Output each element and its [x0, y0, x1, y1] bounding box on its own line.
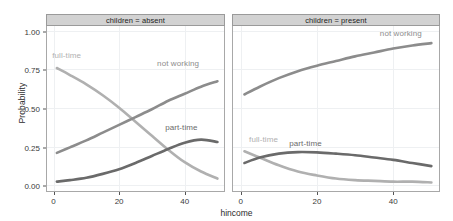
x-tick-mark — [119, 192, 120, 195]
x-tick-mark — [317, 192, 318, 195]
facet-panel: children = presentnot workingfull-timepa… — [232, 14, 440, 192]
x-tick-label: 40 — [389, 197, 398, 206]
series-label-not-working: not working — [380, 28, 422, 37]
x-tick-label: 0 — [238, 197, 242, 206]
series-label-part-time: part-time — [165, 123, 197, 132]
x-tick-mark — [185, 192, 186, 195]
series-label-part-time: part-time — [289, 138, 321, 147]
panel-strip-label: children = present — [232, 14, 440, 26]
y-tick-label: 0.75 — [14, 66, 40, 75]
facet-panel: children = absentfull-timenot workingpar… — [46, 14, 225, 192]
x-tick-mark — [241, 192, 242, 195]
x-tick-mark — [393, 192, 394, 195]
series-label-not-working: not working — [157, 59, 199, 68]
series-line-not-working — [244, 43, 431, 94]
chart-figure: Probability 0.000.250.500.751.00 0204002… — [0, 0, 453, 221]
panel-strip-label: children = absent — [46, 14, 225, 26]
series-line-not-working — [57, 81, 218, 153]
series-line-part-time — [57, 140, 218, 182]
series-label-full-time: full-time — [249, 134, 278, 143]
series-label-full-time: full-time — [52, 50, 81, 59]
series-lines — [233, 26, 439, 191]
x-axis-title: hincome — [0, 208, 453, 218]
plot-area: full-timenot workingpart-time — [46, 26, 225, 192]
x-tick-label: 20 — [115, 197, 124, 206]
y-tick-label: 0.50 — [14, 105, 40, 114]
y-tick-label: 1.00 — [14, 27, 40, 36]
y-tick-label: 0.25 — [14, 143, 40, 152]
plot-area: not workingfull-timepart-time — [232, 26, 440, 192]
x-tick-label: 40 — [180, 197, 189, 206]
x-tick-label: 0 — [51, 197, 55, 206]
x-tick-mark — [54, 192, 55, 195]
x-tick-label: 20 — [312, 197, 321, 206]
y-tick-label: 0.00 — [14, 182, 40, 191]
